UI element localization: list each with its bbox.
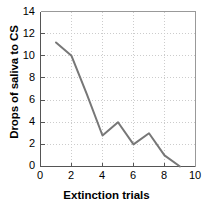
y-tick-label: 2 [13, 138, 35, 149]
y-tick-label: 6 [13, 94, 35, 105]
x-tick-label: 8 [152, 170, 176, 181]
x-axis-label: Extinction trials [0, 189, 213, 201]
data-series [56, 43, 180, 167]
y-tick-label: 14 [13, 6, 35, 17]
gridlines [41, 12, 196, 167]
x-tick-label: 6 [121, 170, 145, 181]
axis-spines [41, 12, 196, 167]
x-axis-tick-labels: 0 2 4 6 8 10 [0, 170, 213, 184]
x-tick-label: 2 [59, 170, 83, 181]
x-tick-label: 0 [28, 170, 52, 181]
y-tick-label: 4 [13, 116, 35, 127]
x-tick-label: 4 [90, 170, 114, 181]
chart-figure: Drops of saliva to CS 14 12 10 8 6 4 2 0… [0, 0, 213, 208]
y-tick-label: 12 [13, 28, 35, 39]
y-tick-label: 10 [13, 50, 35, 61]
x-tick-label: 10 [183, 170, 207, 181]
y-tick-label: 8 [13, 72, 35, 83]
axis-ticks [41, 12, 196, 167]
